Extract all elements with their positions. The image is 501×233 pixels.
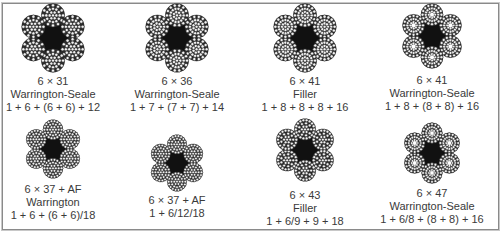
rope-type: Filler: [240, 88, 370, 102]
rope-type: Warrington-Seale: [367, 87, 497, 101]
rope-construction: 6 × 36: [112, 75, 242, 89]
rope-formula: 1 + 8 + 8 + 8 + 16: [240, 101, 370, 115]
rope-cross-section-icon: [148, 134, 206, 192]
rope-formula: 1 + 7 + (7 + 7) + 14: [112, 101, 242, 115]
rope-cross-section-icon: [401, 122, 463, 184]
rope-formula: 1 + 8 + (8 + 8) + 16: [367, 100, 497, 114]
rope-formula: 1 + 6 + (6 + 6) + 12: [0, 101, 118, 115]
rope-type: Warrington-Seale: [367, 200, 497, 214]
rope-construction: 6 × 41: [367, 74, 497, 88]
rope-formula: 1 + 6/9 + 9 + 18: [240, 215, 370, 229]
rope-type: Warrington-Seale: [0, 88, 118, 102]
rope-construction: 6 × 31: [0, 75, 118, 89]
rope-formula: 1 + 6/12/18: [112, 207, 242, 221]
rope-formula: 1 + 6 + (6 + 6)/18: [0, 209, 118, 223]
rope-construction: 6 × 37 + AF: [0, 183, 118, 197]
rope-cross-section-icon: [23, 119, 83, 179]
rope-type: Warrington: [0, 196, 118, 210]
rope-cross-section-icon: [399, 3, 465, 69]
rope-cross-section-icon: [273, 118, 337, 182]
rope-cross-section-icon: [270, 3, 340, 73]
rope-construction: 6 × 41: [240, 75, 370, 89]
rope-construction: 6 × 43: [240, 189, 370, 203]
rope-type: Filler: [240, 202, 370, 216]
rope-formula: 1 + 6/8 + (8 + 8) + 16: [367, 213, 497, 227]
rope-type: Warrington-Seale: [112, 88, 242, 102]
rope-construction: 6 × 47: [367, 187, 497, 201]
rope-cross-section-icon: [18, 3, 88, 73]
rope-cross-section-icon: [142, 3, 212, 73]
rope-construction: 6 × 37 + AF: [112, 194, 242, 208]
